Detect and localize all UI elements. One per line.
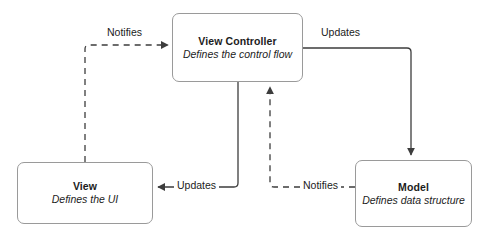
- node-model[interactable]: Model Defines data structure: [355, 160, 472, 227]
- node-view-controller-title: View Controller: [198, 35, 276, 48]
- edge-controller-updates-model: [303, 48, 411, 155]
- node-view-subtitle: Defines the UI: [46, 193, 125, 206]
- mvc-diagram: View Controller Defines the control flow…: [0, 0, 489, 243]
- edge-model-notifies-controller: [270, 87, 355, 187]
- edge-label-controller-updates-view: Updates: [174, 179, 219, 191]
- edge-label-view-notifies-controller: Notifies: [104, 26, 145, 38]
- edge-label-controller-updates-model: Updates: [318, 26, 363, 38]
- node-view[interactable]: View Defines the UI: [17, 162, 153, 224]
- edge-controller-updates-view: [158, 82, 238, 187]
- edge-label-model-notifies-controller: Notifies: [300, 179, 341, 191]
- node-view-title: View: [73, 180, 97, 193]
- node-model-subtitle: Defines data structure: [356, 194, 471, 207]
- node-model-title: Model: [398, 181, 429, 194]
- edge-view-notifies-controller: [85, 45, 168, 162]
- node-view-controller[interactable]: View Controller Defines the control flow: [172, 13, 303, 82]
- node-view-controller-subtitle: Defines the control flow: [177, 48, 298, 61]
